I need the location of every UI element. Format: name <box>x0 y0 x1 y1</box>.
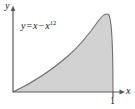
x-axis-arrowhead <box>120 90 126 95</box>
curve-equation-label: y=x−x12 <box>21 21 56 31</box>
y-axis-label: y <box>5 1 9 11</box>
equation-term2-exponent: 12 <box>50 19 57 26</box>
area-under-curve-figure: y x 1 y=x−x12 <box>0 0 135 109</box>
x-axis-label: x <box>126 86 130 96</box>
equation-equals: = <box>25 20 33 31</box>
figure-canvas <box>0 0 135 109</box>
equation-term1: x <box>33 20 37 31</box>
y-axis-arrowhead <box>11 6 16 12</box>
x-tick-label-1: 1 <box>110 96 115 106</box>
